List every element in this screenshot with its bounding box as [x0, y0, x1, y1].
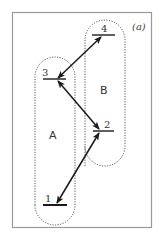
level-1-label: 1	[45, 193, 51, 204]
figure-frame	[13, 13, 152, 228]
level-3-label: 3	[42, 67, 48, 78]
group-b-label: B	[100, 84, 108, 97]
panel-label: (a)	[132, 21, 146, 32]
energy-level-diagram: 4 3 2 1 A B (a)	[0, 0, 163, 239]
group-a-label: A	[49, 129, 57, 142]
level-4-label: 4	[101, 23, 107, 34]
level-2-label: 2	[104, 119, 110, 130]
